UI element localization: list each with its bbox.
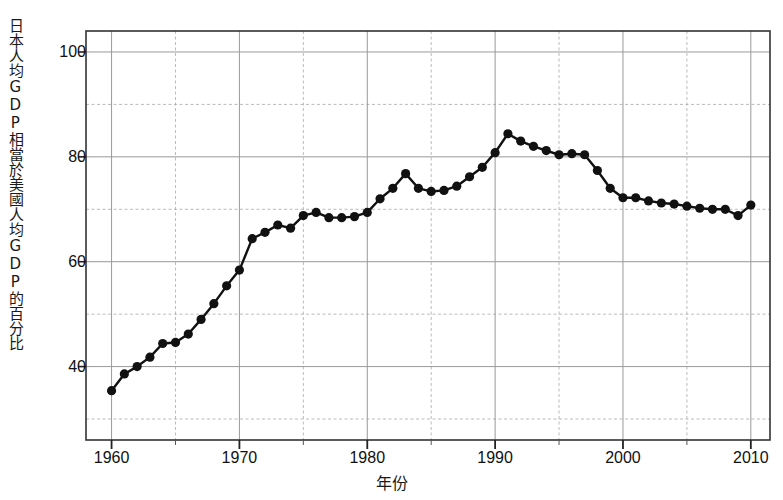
- data-point: [145, 353, 154, 362]
- x-tick-label: 1970: [204, 449, 274, 467]
- data-point: [491, 148, 500, 157]
- data-point: [196, 315, 205, 324]
- data-point: [133, 362, 142, 371]
- data-point: [337, 213, 346, 222]
- plot-background: [86, 31, 770, 440]
- data-point: [363, 208, 372, 217]
- data-point: [439, 186, 448, 195]
- data-point: [567, 149, 576, 158]
- plot-area: [0, 0, 783, 500]
- data-point: [375, 194, 384, 203]
- y-axis-tick-labels: 406080100: [38, 0, 86, 500]
- data-point: [260, 228, 269, 237]
- data-point: [657, 198, 666, 207]
- data-point: [299, 211, 308, 220]
- y-axis-title: 日本人均GDP相當於美國人均GDP的百分比: [2, 18, 28, 484]
- data-point: [209, 299, 218, 308]
- data-point: [414, 184, 423, 193]
- data-point: [593, 166, 602, 175]
- data-point: [120, 369, 129, 378]
- data-point: [580, 150, 589, 159]
- data-point: [184, 329, 193, 338]
- data-point: [682, 202, 691, 211]
- data-point: [107, 386, 116, 395]
- y-tick-label: 60: [46, 253, 86, 271]
- data-point: [452, 182, 461, 191]
- chart-figure: 日本人均GDP相當於美國人均GDP的百分比 406080100 19601970…: [0, 0, 783, 500]
- data-point: [631, 193, 640, 202]
- data-point: [312, 208, 321, 217]
- x-axis-title: 年份: [0, 470, 783, 494]
- x-tick-label: 2010: [716, 449, 783, 467]
- data-point: [618, 193, 627, 202]
- data-point: [542, 146, 551, 155]
- data-point: [235, 266, 244, 275]
- data-point: [427, 187, 436, 196]
- data-point: [171, 338, 180, 347]
- x-tick-label: 1960: [77, 449, 147, 467]
- data-point: [746, 200, 755, 209]
- data-point: [708, 205, 717, 214]
- data-point: [401, 169, 410, 178]
- y-tick-label: 80: [46, 148, 86, 166]
- x-tick-label: 1990: [460, 449, 530, 467]
- data-point: [695, 204, 704, 213]
- x-axis-ticks: [112, 440, 751, 449]
- data-point: [606, 184, 615, 193]
- data-point: [721, 205, 730, 214]
- data-point: [158, 339, 167, 348]
- data-point: [286, 224, 295, 233]
- data-point: [554, 150, 563, 159]
- data-point: [478, 163, 487, 172]
- data-point: [324, 213, 333, 222]
- data-point: [503, 129, 512, 138]
- data-point: [670, 199, 679, 208]
- data-point: [644, 196, 653, 205]
- y-tick-label: 100: [46, 43, 86, 61]
- data-point: [273, 220, 282, 229]
- data-point: [465, 172, 474, 181]
- x-tick-label: 1980: [332, 449, 402, 467]
- data-point: [529, 142, 538, 151]
- data-point: [388, 184, 397, 193]
- data-point: [733, 211, 742, 220]
- data-point: [248, 234, 257, 243]
- data-point: [222, 281, 231, 290]
- y-tick-label: 40: [46, 358, 86, 376]
- x-tick-label: 2000: [588, 449, 658, 467]
- data-point: [516, 137, 525, 146]
- data-point: [350, 212, 359, 221]
- y-axis-title-text: 日本人均GDP相當於美國人均GDP的百分比: [7, 18, 24, 351]
